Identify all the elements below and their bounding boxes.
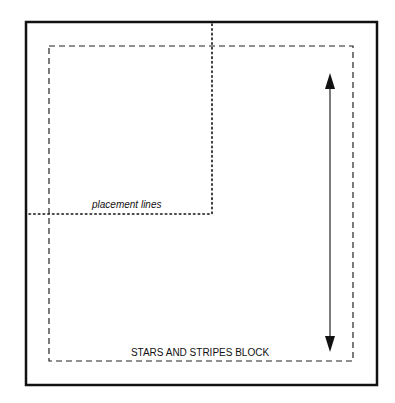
block-diagram — [0, 0, 395, 403]
outer-frame — [26, 22, 377, 385]
placement-lines-label: placement lines — [92, 199, 161, 210]
measure-arrow — [325, 73, 335, 352]
arrow-up-icon — [325, 73, 335, 89]
block-title-label: STARS AND STRIPES BLOCK — [0, 347, 395, 358]
